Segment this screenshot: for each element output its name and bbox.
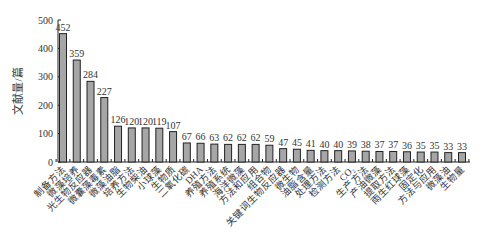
bar-value-label: 63 — [209, 132, 219, 143]
bar-value-label: 33 — [443, 141, 453, 152]
bar — [183, 143, 190, 162]
bar-value-label: 41 — [306, 138, 316, 149]
bar-value-label: 284 — [83, 69, 98, 80]
bar — [225, 144, 232, 162]
bar-value-label: 37 — [374, 139, 384, 150]
bar — [390, 151, 397, 162]
bar-value-label: 227 — [97, 86, 112, 97]
bar — [142, 128, 149, 162]
bar-value-label: 119 — [152, 116, 167, 127]
bar-value-label: 107 — [166, 120, 181, 131]
bar-value-label: 120 — [124, 116, 139, 127]
bar-value-label: 36 — [402, 140, 412, 151]
y-tick-label: 100 — [38, 128, 53, 139]
bar-value-label: 40 — [319, 139, 329, 150]
bar — [417, 152, 424, 162]
chart-canvas: 0100200300400500 45235928422712612012011… — [0, 0, 488, 236]
bar-value-label: 120 — [138, 116, 153, 127]
bar — [101, 98, 108, 162]
y-axis: 0100200300400500 — [38, 15, 61, 168]
bar-value-label: 62 — [237, 132, 247, 143]
bar-value-label: 62 — [251, 132, 261, 143]
bars: 4523592842271261201201191076766636262625… — [56, 22, 468, 162]
bar-value-label: 67 — [182, 131, 192, 142]
bar-chart: 0100200300400500 45235928422712612012011… — [0, 0, 488, 236]
bar — [252, 144, 259, 162]
bar — [307, 150, 314, 162]
bar-value-label: 47 — [278, 137, 288, 148]
category-labels: 制备方法微藻培养光生物反应器微囊藻毒素微藻油脂培养方法生物柴油小球藻生物质二氧化… — [31, 164, 466, 228]
bar — [197, 143, 204, 162]
bar-value-label: 35 — [429, 140, 439, 151]
y-tick-label: 500 — [38, 15, 53, 26]
bar — [335, 151, 342, 162]
bar-value-label: 66 — [196, 131, 206, 142]
bar — [238, 144, 245, 162]
bar — [211, 144, 218, 162]
bar — [87, 81, 94, 162]
bar-value-label: 45 — [292, 137, 302, 148]
bar — [431, 152, 438, 162]
bar — [266, 145, 273, 162]
bar — [73, 60, 80, 162]
bar-value-label: 40 — [333, 139, 343, 150]
bar-value-label: 452 — [56, 22, 71, 33]
bar — [362, 151, 369, 162]
bar — [348, 151, 355, 162]
y-tick-label: 300 — [38, 71, 53, 82]
bar — [459, 153, 466, 162]
bar — [170, 132, 177, 162]
bar — [445, 153, 452, 162]
bar-value-label: 37 — [388, 139, 398, 150]
bar-value-label: 39 — [347, 139, 357, 150]
bar — [115, 126, 122, 162]
y-tick-label: 400 — [38, 43, 53, 54]
bar — [280, 149, 287, 162]
y-axis-title: 文献量/篇 — [11, 67, 24, 114]
y-tick-label: 200 — [38, 100, 53, 111]
y-tick-label: 0 — [48, 157, 53, 168]
bar-value-label: 59 — [264, 133, 274, 144]
bar-value-label: 38 — [361, 139, 371, 150]
bar — [60, 34, 67, 162]
bar — [376, 151, 383, 162]
bar-value-label: 62 — [223, 132, 233, 143]
bar — [128, 128, 135, 162]
bar — [293, 149, 300, 162]
bar — [321, 151, 328, 162]
bar — [156, 128, 163, 162]
bar — [403, 152, 410, 162]
bar-value-label: 126 — [111, 114, 126, 125]
bar-value-label: 359 — [69, 48, 84, 59]
bar-value-label: 35 — [416, 140, 426, 151]
bar-value-label: 33 — [457, 141, 467, 152]
